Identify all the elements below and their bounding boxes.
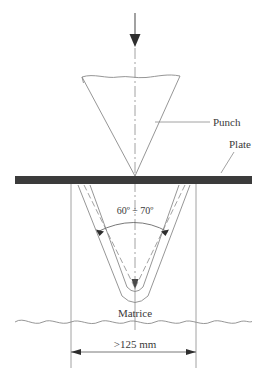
angle-vertex-arrow xyxy=(132,279,139,289)
force-arrow-head xyxy=(130,34,141,47)
width-arrow-left xyxy=(71,349,81,355)
matrice-label: Matrice xyxy=(118,307,152,319)
width-label: >125 mm xyxy=(114,338,157,350)
punch-body xyxy=(82,75,180,176)
plate-leader-line xyxy=(221,152,234,173)
matrice-groove-inner xyxy=(90,185,179,292)
diagram-canvas: Punch Plate xyxy=(0,0,268,384)
angle-line-right xyxy=(135,185,185,288)
punch-outline xyxy=(82,75,180,176)
downward-force-arrow xyxy=(130,13,141,47)
angle-line-left xyxy=(84,185,135,288)
v-bending-diagram: Punch Plate xyxy=(0,0,268,384)
punch-label-group: Punch xyxy=(155,116,241,128)
matrice-break-line xyxy=(15,320,252,323)
punch-label: Punch xyxy=(213,116,241,128)
plate-label-group: Plate xyxy=(221,138,251,173)
width-dimension: >125 mm xyxy=(71,318,196,368)
angle-arc xyxy=(97,223,168,233)
width-arrow-right xyxy=(186,349,196,355)
plate-label: Plate xyxy=(229,138,251,150)
plate-bar xyxy=(15,176,252,184)
angle-label: 60º ÷ 70º xyxy=(117,205,154,216)
